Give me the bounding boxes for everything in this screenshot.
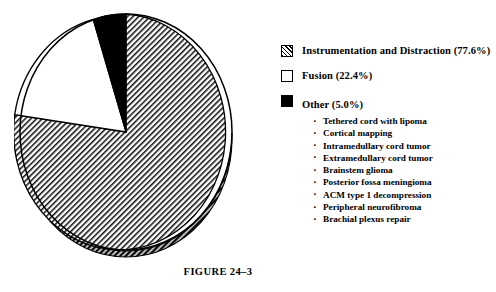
list-item: Intramedullary cord tumor (313, 140, 433, 152)
legend-other-block: Other (5.0%) Tethered cord with lipoma C… (302, 94, 433, 226)
list-item: Brainstem glioma (313, 164, 433, 176)
pie-chart (14, 10, 254, 262)
black-swatch-icon (281, 95, 293, 107)
chart-legend: Instrumentation and Distraction (77.6%) … (281, 44, 495, 226)
legend-label-instrumentation: Instrumentation and Distraction (77.6%) (302, 44, 490, 57)
figure-caption: FIGURE 24–3 (0, 266, 436, 277)
list-item: Cortical mapping (313, 127, 433, 139)
list-item: Tethered cord with lipoma (313, 115, 433, 127)
pie-slices (14, 14, 226, 250)
legend-label-other: Other (5.0%) (302, 99, 363, 110)
legend-item-fusion: Fusion (22.4%) (281, 69, 495, 82)
hatched-swatch-icon (281, 45, 293, 57)
list-item: Posterior fossa meningioma (313, 176, 433, 188)
white-swatch-icon (281, 70, 293, 82)
list-item: Peripheral neurofibroma (313, 201, 433, 213)
other-category-list: Tethered cord with lipoma Cortical mappi… (302, 115, 433, 226)
list-item: Brachial plexus repair (313, 213, 433, 225)
legend-label-fusion: Fusion (22.4%) (302, 69, 372, 82)
legend-item-other: Other (5.0%) Tethered cord with lipoma C… (281, 94, 495, 226)
list-item: Extramedullary cord tumor (313, 152, 433, 164)
pie-chart-svg (14, 10, 254, 262)
figure-container: Instrumentation and Distraction (77.6%) … (0, 0, 496, 292)
legend-item-instrumentation: Instrumentation and Distraction (77.6%) (281, 44, 495, 57)
list-item: ACM type 1 decompression (313, 189, 433, 201)
